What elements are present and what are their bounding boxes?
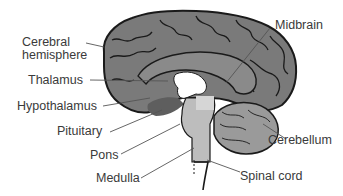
label-medulla: Medulla <box>96 172 140 185</box>
label-pituitary: Pituitary <box>57 125 102 138</box>
label-cerebellum: Cerebellum <box>268 134 332 147</box>
label-cerebral-hemisphere-line2: hemisphere <box>22 49 87 62</box>
label-hypothalamus: Hypothalamus <box>17 100 97 113</box>
label-thalamus: Thalamus <box>28 74 83 87</box>
label-pons: Pons <box>90 149 119 162</box>
label-spinal-cord: Spinal cord <box>240 170 303 183</box>
brain-diagram: Cerebral hemisphere Thalamus Hypothalamu… <box>0 0 343 196</box>
label-midbrain: Midbrain <box>275 19 323 32</box>
midbrain-region <box>196 96 214 110</box>
spinal-cord-shape <box>194 162 208 190</box>
